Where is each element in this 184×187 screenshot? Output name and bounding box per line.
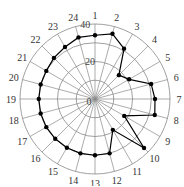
data-point — [53, 137, 57, 141]
data-point — [117, 73, 121, 77]
data-point — [149, 82, 153, 86]
grid-spoke — [76, 99, 95, 171]
data-point — [63, 45, 67, 49]
grid-spoke — [23, 80, 95, 99]
data-point — [110, 32, 114, 36]
axis-label: 16 — [31, 153, 41, 164]
axis-label: 9 — [165, 136, 170, 147]
grid-spoke — [95, 34, 133, 99]
data-point — [78, 151, 82, 155]
data-point — [122, 114, 126, 118]
axis-label: 14 — [68, 175, 78, 186]
axis-label: 7 — [177, 94, 182, 105]
grid-spoke — [95, 80, 167, 99]
axis-label: 17 — [17, 136, 27, 147]
data-point — [153, 113, 157, 117]
axis-label: 19 — [6, 94, 16, 105]
radial-tick-label: 0 — [87, 96, 92, 107]
grid-spoke — [23, 99, 95, 118]
data-point — [44, 69, 48, 73]
data-point — [76, 35, 80, 39]
axis-label: 23 — [48, 21, 58, 32]
axis-label: 20 — [9, 72, 19, 83]
axis-label: 8 — [174, 115, 179, 126]
data-point — [142, 146, 146, 150]
grid-spoke — [95, 46, 148, 99]
grid-spoke — [95, 99, 148, 152]
grid-spoke — [42, 46, 95, 99]
data-point — [52, 56, 56, 60]
axis-label: 24 — [68, 12, 78, 23]
radar-chart: 1234567891011121314151617181920212223240… — [0, 0, 184, 186]
data-point — [65, 146, 69, 150]
axis-label: 22 — [31, 34, 41, 45]
grid-spoke — [95, 27, 114, 99]
axis-label: 5 — [165, 52, 170, 63]
data-point — [93, 153, 97, 157]
axis-label: 3 — [135, 21, 140, 32]
axis-label: 6 — [174, 72, 179, 83]
axis-label: 4 — [152, 34, 157, 45]
data-point — [38, 82, 42, 86]
data-point — [122, 46, 126, 50]
data-point — [44, 125, 48, 129]
axis-label: 15 — [48, 166, 58, 177]
axis-label: 18 — [9, 115, 19, 126]
axis-label: 13 — [90, 178, 100, 187]
data-point — [127, 77, 131, 81]
axis-label: 1 — [93, 10, 98, 21]
axis-label: 11 — [132, 166, 142, 177]
data-point — [93, 33, 97, 37]
data-point — [153, 97, 157, 101]
data-point — [107, 151, 111, 155]
data-point — [37, 97, 41, 101]
axis-label: 10 — [149, 153, 159, 164]
radial-tick-label: 20 — [85, 56, 95, 67]
axis-label: 21 — [17, 52, 27, 63]
axis-label: 2 — [114, 12, 119, 23]
grid-spoke — [95, 99, 160, 137]
axis-label: 12 — [112, 175, 122, 186]
radial-tick-label: 40 — [80, 19, 90, 30]
data-point — [111, 128, 115, 132]
data-point — [38, 111, 42, 115]
